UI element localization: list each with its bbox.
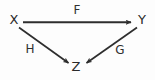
edge-label-h: H: [23, 43, 37, 55]
edge-label-g: G: [113, 44, 127, 56]
arrow-g-y-to-z: [87, 28, 138, 64]
edge-label-f: F: [70, 4, 84, 16]
node-label-y: Y: [135, 13, 149, 26]
node-label-z: Z: [69, 60, 83, 73]
commutative-diagram: X Y Z F H G: [0, 0, 155, 80]
node-label-x: X: [7, 13, 21, 26]
